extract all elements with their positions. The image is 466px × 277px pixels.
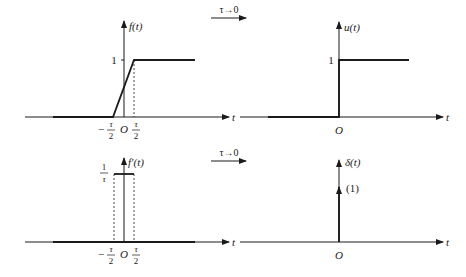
pos-tick-numerator: τ: [134, 119, 138, 129]
neg-tick-denominator: 2: [109, 131, 114, 141]
y-axis-label: f(t): [129, 20, 143, 33]
neg-tick-numerator: τ: [109, 119, 113, 129]
neg-sign: −: [98, 248, 104, 260]
step-curve: [268, 60, 409, 117]
neg-tick-numerator: τ: [109, 244, 113, 254]
level-label: 1: [328, 54, 334, 66]
pos-tick-denominator: 2: [134, 256, 139, 266]
x-axis-label: t: [232, 236, 236, 248]
x-axis-label: t: [446, 236, 450, 248]
origin-label: O: [120, 248, 128, 260]
neg-sign: −: [98, 123, 104, 135]
impulse-strength-label: (1): [346, 182, 359, 195]
origin-label: O: [120, 123, 128, 135]
y-axis-label: u(t): [344, 21, 360, 34]
pos-tick-numerator: τ: [134, 244, 138, 254]
neg-tick-denominator: 2: [109, 256, 114, 266]
panel-impulse-function: δ(t) (1) t O: [240, 156, 450, 261]
limit-label: τ→0: [219, 4, 238, 15]
limit-arrow-bottom: τ→0: [211, 147, 246, 161]
y-axis-label: δ(t): [345, 156, 361, 169]
limit-label: τ→0: [219, 147, 238, 158]
origin-label: O: [335, 124, 343, 136]
x-axis-label: t: [232, 111, 236, 123]
x-axis-label: t: [446, 111, 450, 123]
pos-tick-denominator: 2: [134, 131, 139, 141]
level-denominator: τ: [102, 174, 106, 184]
panel-step-function: u(t) 1 t O: [240, 21, 450, 136]
limit-arrow-top: τ→0: [211, 4, 246, 18]
level-label: 1: [111, 54, 117, 66]
y-axis-label: f′(t): [128, 156, 144, 169]
panel-ramp-function: f(t) 1 t O − τ 2 τ 2: [25, 20, 236, 141]
origin-label: O: [335, 249, 343, 261]
diagram-canvas: f(t) 1 t O − τ 2 τ 2 τ→0 u(t) 1 t O f′(t…: [0, 0, 466, 277]
panel-pulse-function: f′(t) 1 τ t O − τ 2 τ 2: [25, 156, 236, 266]
level-numerator: 1: [102, 162, 107, 172]
